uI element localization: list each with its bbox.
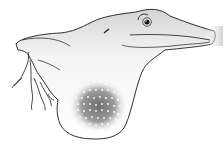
snout-glow xyxy=(206,26,223,46)
lizard-illustration: Lizard (anole) with extended throat dewl… xyxy=(0,0,223,154)
dewlap xyxy=(68,78,128,134)
lizard-drawing xyxy=(0,0,223,154)
